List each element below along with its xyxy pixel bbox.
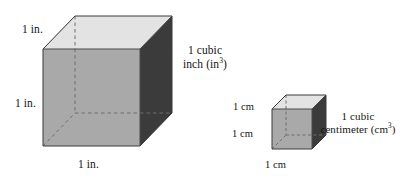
large-cube-width-label: 1 in. [78, 158, 99, 172]
cubes-illustration [0, 0, 408, 181]
cubic-inch-caption-line2-prefix: inch (in [183, 58, 219, 70]
cubic-centimeter-caption-line2-prefix: centimeter (cm [320, 123, 388, 135]
small-cube-width-label: 1 cm [265, 159, 286, 171]
cubic-inch-caption: 1 cubic inch (in3) [168, 44, 242, 71]
cubic-centimeter-caption-line2-suffix: ) [392, 123, 396, 135]
cubic-inch-caption-line2-suffix: ) [223, 58, 227, 70]
cubic-centimeter-caption-line1: 1 cubic [342, 110, 375, 122]
cubic-inch-caption-line1: 1 cubic [188, 44, 222, 56]
cubic-centimeter-caption: 1 cubic centimeter (cm3) [310, 110, 406, 136]
large-cube-depth-label: 1 in. [22, 23, 43, 37]
large-cube-height-label: 1 in. [15, 97, 36, 111]
figure-root: 1 in. 1 in. 1 in. 1 cubic inch (in3) 1 c… [0, 0, 408, 181]
small-cube-height-label: 1 cm [232, 128, 253, 140]
large-cube-group [43, 16, 172, 146]
small-cube-depth-label: 1 cm [233, 101, 254, 113]
